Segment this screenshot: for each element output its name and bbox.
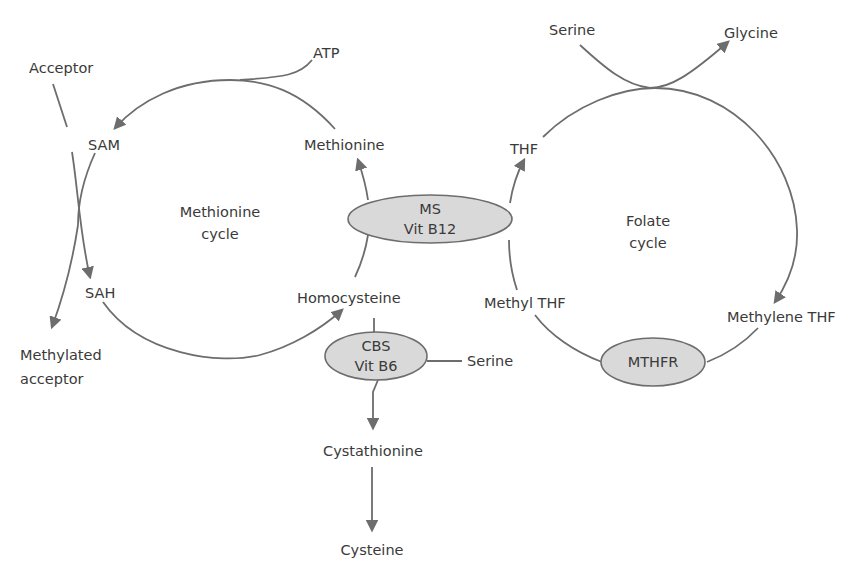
atp-input-line (240, 60, 312, 80)
label-sam: SAM (88, 137, 120, 153)
label-thf: THF (509, 141, 538, 157)
label-methyl-thf: Methyl THF (484, 295, 566, 311)
label-homocysteine: Homocysteine (297, 290, 401, 306)
label-serine-cbs: Serine (467, 353, 513, 369)
enzyme-ms-cofactor: Vit B12 (404, 221, 456, 237)
arrow-methionine-to-sam (115, 80, 335, 129)
acceptor-line (53, 84, 67, 127)
label-methionine-cycle-2: cycle (201, 226, 239, 242)
enzyme-mthfr-name: MTHFR (628, 354, 679, 370)
enzyme-cbs: CBS Vit B6 (325, 332, 427, 380)
label-methylene-thf: Methylene THF (727, 309, 836, 325)
label-folate-cycle-2: cycle (629, 235, 667, 251)
arc-methylene-to-mthfr (707, 328, 758, 362)
label-atp: ATP (313, 45, 340, 61)
label-cystathionine: Cystathionine (323, 443, 423, 459)
label-serine-top: Serine (549, 22, 595, 38)
enzyme-cbs-cofactor: Vit B6 (354, 358, 397, 374)
arc-methyl-thf-to-ms (509, 240, 517, 290)
label-sah: SAH (85, 285, 115, 301)
arrow-sah-to-homocysteine (103, 302, 342, 358)
label-methionine: Methionine (304, 137, 385, 153)
enzyme-cbs-name: CBS (361, 338, 390, 354)
serine-glycine-line (580, 42, 728, 88)
label-methylated-acceptor-1: Methylated (20, 347, 102, 363)
arc-mthfr-to-methyl-thf (535, 315, 602, 362)
arc-homocysteine-to-ms (355, 235, 368, 277)
label-folate-cycle-1: Folate (626, 213, 670, 229)
enzyme-ms: MS Vit B12 (348, 195, 512, 243)
enzyme-ms-name: MS (419, 201, 441, 217)
label-acceptor: Acceptor (29, 60, 93, 76)
label-methionine-cycle-1: Methionine (180, 204, 261, 220)
arrow-ms-to-methionine (358, 160, 368, 200)
enzyme-mthfr: MTHFR (601, 338, 705, 386)
arrow-to-methylated-acceptor (52, 225, 78, 327)
arrow-cbs-to-cystathionine (373, 380, 378, 428)
label-glycine: Glycine (724, 25, 778, 41)
label-cysteine: Cysteine (340, 542, 403, 558)
arrow-thf-to-methylene-thf (543, 88, 797, 302)
pathway-diagram: MS Vit B12 CBS Vit B6 MTHFR Acceptor ATP… (0, 0, 857, 574)
arrow-ms-to-thf (510, 160, 524, 203)
label-methylated-acceptor-2: acceptor (20, 371, 84, 387)
